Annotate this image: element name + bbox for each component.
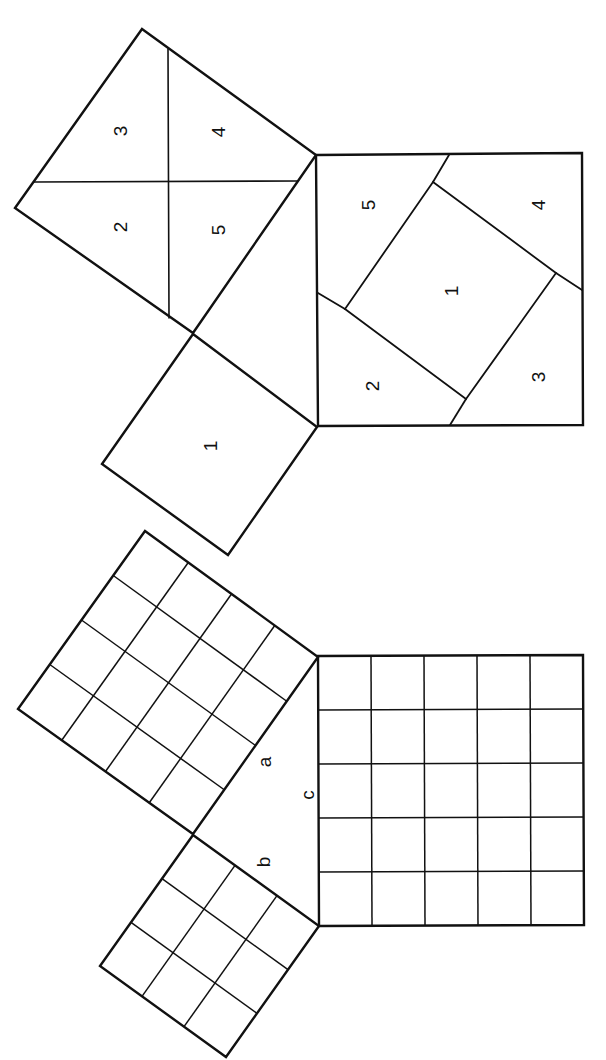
grid-line [142, 865, 235, 996]
piece-5-right: 5 [359, 200, 378, 211]
inner-extension-top [433, 155, 449, 182]
grid-line [477, 655, 478, 925]
grid-line [371, 656, 372, 926]
cut-vertical [168, 49, 169, 318]
grid-line [184, 896, 277, 1027]
piece-3-left: 3 [111, 126, 130, 137]
piece-1-right: 1 [442, 286, 461, 297]
grid-line [319, 871, 584, 872]
pythagorean-diagram: 3425154123acb [0, 0, 606, 1060]
square-b-grid-border [100, 835, 319, 1057]
grid-line [318, 763, 583, 764]
inner-extension-right [556, 273, 582, 290]
grid-line [50, 665, 225, 790]
dissection-proof-figure [15, 29, 583, 555]
inner-extension-bottom [450, 399, 466, 425]
grid-line [162, 879, 288, 970]
piece-3-right: 3 [529, 372, 548, 383]
side-label-b: b [254, 857, 273, 868]
side-label-a: a [255, 757, 274, 768]
piece-4-left: 4 [209, 127, 228, 138]
side-label-c: c [298, 790, 317, 800]
piece-2-right: 2 [363, 381, 382, 392]
grid-line [530, 655, 531, 925]
cut-horizontal [34, 181, 298, 182]
inner-extension-left [318, 293, 345, 309]
piece-1-left: 1 [201, 441, 220, 452]
grid-line [318, 709, 583, 710]
grid-line [82, 620, 256, 746]
piece-5-left: 5 [209, 225, 228, 236]
diagram-canvas [0, 0, 606, 1060]
grid-line [319, 817, 584, 818]
grid-line [149, 626, 275, 803]
square-b-grid [100, 835, 319, 1057]
grid-line [131, 922, 257, 1013]
grid-line [424, 656, 425, 926]
square-a-grid [18, 531, 318, 834]
piece-2-left: 2 [111, 222, 130, 233]
piece-4-right: 4 [529, 200, 548, 211]
square-c-grid [318, 655, 584, 926]
square-c-grid-border [318, 655, 584, 926]
